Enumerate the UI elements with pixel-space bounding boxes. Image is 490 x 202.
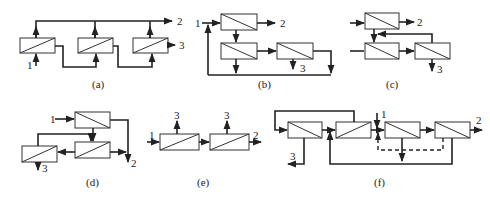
label-retentate: 3 <box>42 162 48 174</box>
label-feed: 1 <box>50 113 56 125</box>
panel-e: 1 2 3 3 (e) <box>147 109 261 189</box>
panel-b: 1 2 3 (b) <box>195 14 331 91</box>
caption-f: (f) <box>374 176 385 189</box>
label-retentate: 3 <box>179 39 185 51</box>
label-permeate: 2 <box>280 17 286 29</box>
membrane-configuration-diagram: 2 3 1 (a) 1 2 3 (b) <box>0 0 490 202</box>
label-retentate-2: 3 <box>224 109 230 121</box>
label-permeate: 2 <box>177 15 183 27</box>
label-feed: 1 <box>381 108 387 120</box>
caption-a: (a) <box>92 78 105 91</box>
label-feed: 1 <box>149 129 155 141</box>
label-retentate: 3 <box>437 63 443 75</box>
label-permeate: 2 <box>131 157 137 169</box>
panel-c: 2 3 (c) <box>350 13 450 91</box>
caption-d: (d) <box>86 176 99 189</box>
label-permeate: 2 <box>476 114 482 126</box>
panel-f: 1 2 3 (f) <box>275 108 482 189</box>
caption-c: (c) <box>386 78 399 91</box>
caption-e: (e) <box>197 176 210 189</box>
label-feed: 1 <box>27 59 33 71</box>
label-permeate: 2 <box>417 16 423 28</box>
label-retentate: 3 <box>300 62 306 74</box>
caption-b: (b) <box>258 78 271 91</box>
label-retentate-1: 3 <box>174 109 180 121</box>
panel-d: 1 2 3 (d) <box>22 112 137 189</box>
label-permeate: 2 <box>253 129 259 141</box>
panel-a: 2 3 1 (a) <box>20 15 185 91</box>
label-feed: 1 <box>195 17 201 29</box>
label-retentate: 3 <box>290 150 296 162</box>
